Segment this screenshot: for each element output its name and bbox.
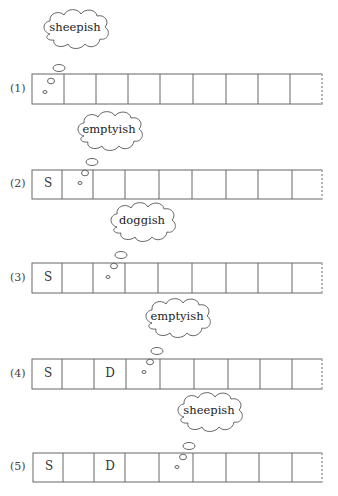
row-label: (4): [10, 367, 26, 380]
thought-text: sheepish: [40, 20, 110, 34]
row-label: (5): [10, 460, 26, 473]
thought-text: emptyish: [142, 309, 212, 323]
cell-text: D: [94, 459, 126, 473]
diagram-canvas: [0, 0, 338, 496]
cell-text: S: [33, 459, 65, 473]
thought-text: emptyish: [74, 122, 144, 136]
row-label: (3): [10, 271, 26, 284]
thought-text: doggish: [107, 213, 177, 227]
cell-text: S: [32, 270, 64, 284]
row-label: (2): [10, 177, 26, 190]
thought-text: sheepish: [174, 403, 244, 417]
cell-text: D: [94, 366, 126, 380]
row-label: (1): [10, 82, 26, 95]
row-3: [32, 203, 322, 293]
cell-text: S: [32, 176, 64, 190]
cell-text: S: [32, 366, 64, 380]
